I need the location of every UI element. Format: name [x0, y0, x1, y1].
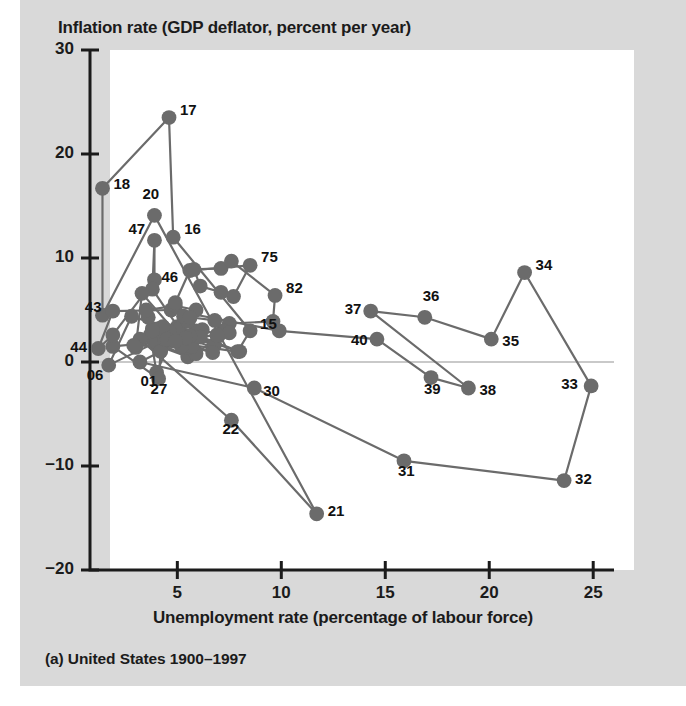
- y-axis-tick-label: −20: [22, 559, 74, 579]
- figure-page: Inflation rate (GDP deflator, percent pe…: [0, 0, 686, 706]
- data-connector-line: [371, 311, 469, 388]
- data-point-label: 06: [87, 367, 104, 382]
- data-point-marker[interactable]: [166, 230, 181, 245]
- data-point-label: 35: [502, 333, 519, 348]
- data-point-label: 36: [423, 288, 440, 303]
- data-point-label: 31: [398, 463, 415, 478]
- data-point-marker[interactable]: [461, 381, 476, 396]
- y-axis-tick-label: 20: [22, 143, 74, 163]
- data-point-marker[interactable]: [168, 334, 183, 349]
- data-point-marker[interactable]: [133, 355, 148, 370]
- data-point-label: 43: [85, 299, 102, 314]
- data-point-marker[interactable]: [243, 258, 258, 273]
- data-connector-line: [491, 273, 524, 340]
- data-point-marker[interactable]: [484, 332, 499, 347]
- data-point-label: 38: [479, 382, 496, 397]
- data-point-marker[interactable]: [105, 328, 120, 343]
- data-point-label: 40: [351, 332, 368, 347]
- data-point-marker[interactable]: [309, 506, 324, 521]
- data-point-marker[interactable]: [268, 288, 283, 303]
- figure-caption: (a) United States 1900–1997: [45, 650, 247, 668]
- data-point-label: 30: [263, 383, 280, 398]
- data-point-marker[interactable]: [224, 254, 239, 269]
- data-connector-line: [425, 317, 492, 339]
- data-connector-line: [169, 118, 173, 238]
- data-connector-line: [377, 339, 431, 377]
- data-point-marker[interactable]: [363, 304, 378, 319]
- data-point-label: 44: [70, 339, 87, 354]
- data-point-label: 47: [128, 221, 145, 236]
- x-axis-tick-label: 10: [256, 583, 306, 603]
- data-point-marker[interactable]: [370, 332, 385, 347]
- data-point-marker[interactable]: [162, 110, 177, 125]
- data-point-marker[interactable]: [139, 303, 154, 318]
- data-connector-line: [404, 461, 564, 481]
- y-axis-tick-label: −10: [22, 455, 74, 475]
- data-point-marker[interactable]: [243, 323, 258, 338]
- x-axis-tick-label: 15: [360, 583, 410, 603]
- data-point-marker[interactable]: [193, 279, 208, 294]
- data-point-marker[interactable]: [135, 286, 150, 301]
- data-point-label: 33: [561, 376, 578, 391]
- data-point-label: 82: [286, 280, 303, 295]
- data-point-label: 17: [180, 102, 197, 117]
- data-point-label: 27: [151, 381, 168, 396]
- y-axis-tick-label: 30: [22, 39, 74, 59]
- data-point-marker[interactable]: [222, 325, 237, 340]
- data-point-marker[interactable]: [205, 345, 220, 360]
- figure-container: Inflation rate (GDP deflator, percent pe…: [20, 0, 686, 686]
- y-axis-tick-label: 0: [22, 351, 74, 371]
- data-point-marker[interactable]: [168, 295, 183, 310]
- data-point-label: 37: [345, 301, 362, 316]
- data-point-marker[interactable]: [126, 338, 141, 353]
- data-point-marker[interactable]: [557, 473, 572, 488]
- data-point-label: 22: [222, 421, 239, 436]
- data-point-marker[interactable]: [230, 344, 245, 359]
- data-point-label: 75: [261, 249, 278, 264]
- data-point-label: 15: [260, 316, 277, 331]
- data-point-label: 21: [328, 503, 345, 518]
- data-point-marker[interactable]: [147, 208, 162, 223]
- data-point-marker[interactable]: [207, 313, 222, 328]
- data-point-marker[interactable]: [145, 323, 160, 338]
- data-point-marker[interactable]: [91, 341, 106, 356]
- x-axis-title: Unemployment rate (percentage of labour …: [153, 608, 533, 628]
- data-point-label: 39: [424, 381, 441, 396]
- data-point-marker[interactable]: [124, 309, 139, 324]
- data-connector-line: [564, 386, 591, 481]
- data-connector-line: [102, 118, 169, 189]
- data-point-marker[interactable]: [105, 304, 120, 319]
- data-point-marker[interactable]: [209, 328, 224, 343]
- data-point-marker[interactable]: [247, 381, 262, 396]
- data-point-marker[interactable]: [584, 379, 599, 394]
- data-point-marker[interactable]: [101, 358, 116, 373]
- data-point-label: 32: [575, 471, 592, 486]
- data-point-marker[interactable]: [147, 233, 162, 248]
- x-axis-tick-label: 5: [152, 583, 202, 603]
- data-point-marker[interactable]: [95, 181, 110, 196]
- data-point-marker[interactable]: [417, 310, 432, 325]
- data-point-label: 16: [184, 221, 201, 236]
- data-point-label: 34: [536, 257, 553, 272]
- data-connector-line: [525, 273, 592, 386]
- x-axis-tick-label: 20: [464, 583, 514, 603]
- data-point-marker[interactable]: [182, 310, 197, 325]
- data-point-label: 18: [113, 176, 130, 191]
- data-point-marker[interactable]: [214, 285, 229, 300]
- data-point-marker[interactable]: [187, 262, 202, 277]
- data-point-label: 46: [161, 269, 178, 284]
- x-axis-tick-label: 25: [568, 583, 618, 603]
- data-point-marker[interactable]: [517, 265, 532, 280]
- y-axis-tick-label: 10: [22, 247, 74, 267]
- data-point-label: 20: [142, 186, 159, 201]
